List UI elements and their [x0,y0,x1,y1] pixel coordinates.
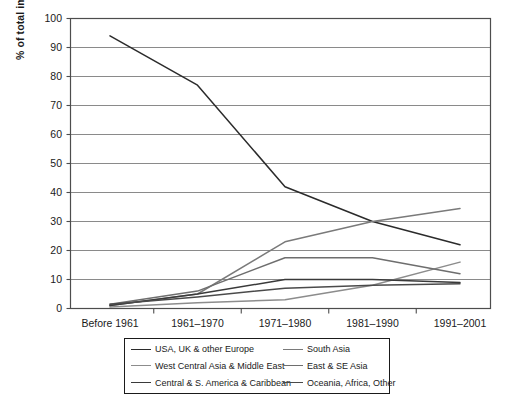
x-tick-label: 1991–2001 [415,317,505,329]
legend-item[interactable]: West Central Asia & Middle East [131,361,283,371]
legend-label: West Central Asia & Middle East [155,361,284,371]
legend-item[interactable]: East & SE Asia [283,361,397,371]
x-tick-label: 1971–1980 [240,317,330,329]
x-tick-label: 1961–1970 [153,317,243,329]
series-line [110,280,460,306]
legend-line-swatch [131,349,151,350]
legend-line-swatch [131,382,151,383]
x-tick-label: 1981–1990 [328,317,418,329]
legend-item[interactable]: USA, UK & other Europe [131,344,283,354]
gridlines [71,19,491,309]
legend-label: Oceania, Africa, Other [307,378,396,388]
legend-item[interactable]: South Asia [283,344,397,354]
legend-item[interactable]: Oceania, Africa, Other [283,378,397,388]
legend-line-swatch [283,382,303,383]
legend-item[interactable]: Central & S. America & Caribbean [131,378,283,388]
legend: USA, UK & other EuropeSouth AsiaWest Cen… [124,338,390,394]
x-tick-label: Before 1961 [65,317,155,329]
legend-line-swatch [283,365,303,366]
series-line [110,284,460,304]
x-axis-tick-marks [154,309,417,314]
legend-line-swatch [283,349,303,350]
series-line [110,36,460,245]
legend-label: East & SE Asia [307,361,368,371]
legend-label: Central & S. America & Caribbean [155,378,291,388]
chart-figure: % of total immigrant population 10090807… [0,0,518,412]
legend-line-swatch [131,365,151,366]
legend-grid: USA, UK & other EuropeSouth AsiaWest Cen… [125,339,389,393]
legend-label: South Asia [307,344,350,354]
legend-label: USA, UK & other Europe [155,344,254,354]
